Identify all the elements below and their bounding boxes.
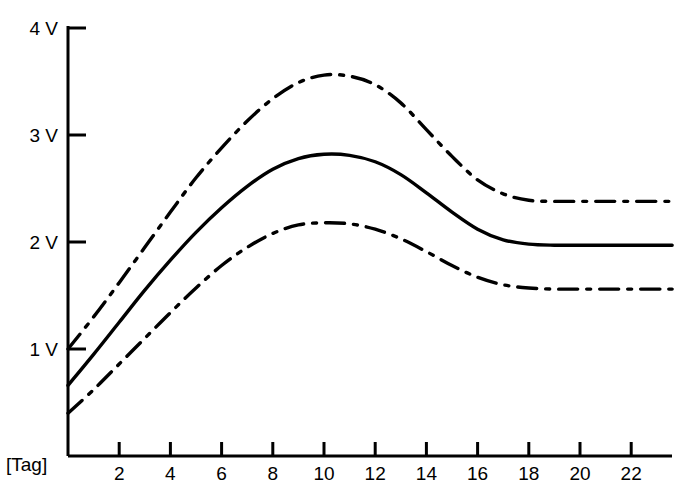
chart-container: 1 V2 V3 V4 V246810121416182022 [Tag] (0, 0, 687, 493)
x-axis-tick-label: 16 (467, 464, 488, 483)
axes-group (68, 26, 672, 456)
x-axis-tick-label: 2 (114, 464, 125, 483)
x-axis-tick-label: 22 (621, 464, 642, 483)
y-axis-tick-label: 4 V (10, 19, 58, 38)
y-axis-tick-label: 3 V (10, 126, 58, 145)
series-group (68, 75, 672, 414)
x-axis-label: [Tag] (6, 455, 47, 474)
x-axis-tick-label: 14 (416, 464, 437, 483)
x-axis-tick-label: 6 (216, 464, 227, 483)
y-axis-tick-label: 1 V (10, 340, 58, 359)
series-line-upper-bound (68, 75, 672, 349)
series-line-lower-bound (68, 223, 672, 414)
x-axis-tick-label: 20 (569, 464, 590, 483)
x-axis-tick-label: 18 (518, 464, 539, 483)
x-axis-tick-label: 12 (365, 464, 386, 483)
x-axis-tick-label: 4 (165, 464, 176, 483)
line-chart-plot (0, 0, 687, 493)
x-axis-tick-label: 10 (313, 464, 334, 483)
y-axis-tick-label: 2 V (10, 233, 58, 252)
x-axis-tick-label: 8 (268, 464, 279, 483)
series-line-mean (68, 154, 672, 385)
